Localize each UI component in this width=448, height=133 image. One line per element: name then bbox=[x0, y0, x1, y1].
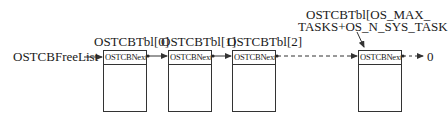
next-field: OSTCBNext bbox=[233, 51, 275, 65]
next-field: OSTCBNext bbox=[169, 51, 211, 65]
tcb-node-0: OSTCBNext bbox=[103, 50, 147, 112]
node-0-label: OSTCBTbl[0] bbox=[94, 36, 169, 48]
free-list-head-label: OSTCBFreeList bbox=[13, 50, 98, 63]
next-field: OSTCBNext bbox=[104, 51, 146, 65]
node-1-label: OSTCBTbl[1] bbox=[161, 36, 236, 48]
null-terminator: 0 bbox=[427, 50, 434, 63]
last-node-label-line2: TASKS+OS_N_SYS_TASK bbox=[298, 21, 448, 33]
next-field: OSTCBNext bbox=[359, 51, 401, 65]
tcb-node-last: OSTCBNext bbox=[358, 50, 402, 112]
node-2-label: OSTCBTbl[2] bbox=[227, 36, 302, 48]
tcb-node-2: OSTCBNext bbox=[232, 50, 276, 112]
tcb-node-1: OSTCBNext bbox=[168, 50, 212, 112]
